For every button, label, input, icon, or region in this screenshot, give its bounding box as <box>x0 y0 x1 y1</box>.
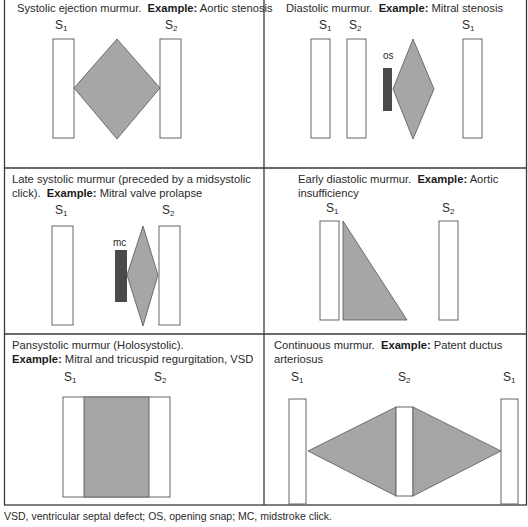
sound-label-s1: S1 <box>326 201 338 216</box>
crescendo-decrescendo-murmur <box>74 39 160 139</box>
sound-label-s2: S2 <box>349 18 361 33</box>
panel-title-pansystolic: Pansystolic murmur (Holosystolic). Examp… <box>12 338 257 366</box>
example-text: Aortic stenosis <box>200 2 273 14</box>
s1-sound-box <box>320 221 339 320</box>
sound-label-s1: S1 <box>319 18 331 33</box>
panel-pansystolic-graphic <box>63 397 170 497</box>
panel-title-diastolic: Diastolic murmur. Example: Mitral stenos… <box>286 1 503 15</box>
panel-systolic-ejection-graphic <box>53 39 181 139</box>
diagram-graphics <box>0 0 528 527</box>
sound-label-s1-next: S1 <box>462 18 474 33</box>
s2-sound-box <box>159 226 180 325</box>
s1-next-sound-box <box>463 39 482 138</box>
panel-title-line1: Late systolic murmur (preceded by a mids… <box>12 172 252 186</box>
s1-sound-box <box>52 226 73 325</box>
example-label: Example: <box>417 173 467 185</box>
late-systolic-murmur-shape <box>127 226 158 326</box>
panel-early-diastolic-graphic <box>320 221 458 320</box>
panel-title-text: Pansystolic murmur (Holosystolic). <box>12 338 257 352</box>
diastolic-murmur-shape <box>393 39 434 139</box>
panel-title-text: Systolic ejection murmur. <box>17 2 141 14</box>
s1-sound-box <box>53 39 74 138</box>
s2-sound-box <box>439 221 458 320</box>
opening-snap-bar <box>383 68 392 111</box>
sound-label-s2: S2 <box>165 18 177 33</box>
panel-title-continuous: Continuous murmur. Example: Patent ductu… <box>274 338 519 366</box>
example-text-line2: arteriosus <box>274 352 519 366</box>
figure-caption: VSD, ventricular septal defect; OS, open… <box>4 510 332 522</box>
panel-continuous-graphic <box>289 399 518 504</box>
sound-label-s1-next: S1 <box>503 370 515 385</box>
sound-label-s1: S1 <box>55 18 67 33</box>
s2-sound-box <box>396 407 413 496</box>
panel-title-text: Continuous murmur. <box>274 339 375 351</box>
marker-label-mc: mc <box>113 237 126 248</box>
example-text: Aortic <box>470 173 499 185</box>
example-label: Example: <box>148 2 198 14</box>
decrescendo-murmur-shape <box>343 221 407 320</box>
marker-label-os: os <box>383 50 394 61</box>
crescendo-murmur-shape <box>308 407 396 496</box>
midsystolic-click-bar <box>115 250 127 302</box>
panel-title-late-systolic: Late systolic murmur (preceded by a mids… <box>12 172 252 200</box>
s1-sound-box <box>311 39 330 138</box>
example-text-line2: insufficiency <box>298 186 520 200</box>
s1-sound-box <box>289 399 306 504</box>
s1-next-sound-box <box>501 399 518 504</box>
panel-title-text: Early diastolic murmur. <box>298 173 411 185</box>
sound-label-s2: S2 <box>398 370 410 385</box>
example-text: Mitral and tricuspid regurgitation, VSD <box>65 353 253 365</box>
panel-title-text: Diastolic murmur. <box>286 2 372 14</box>
s2-sound-box <box>160 39 181 138</box>
sound-label-s2: S2 <box>162 203 174 218</box>
example-label: Example: <box>379 2 429 14</box>
panel-title-line2: click). <box>12 187 41 199</box>
example-label: Example: <box>381 339 431 351</box>
panel-diastolic-graphic <box>311 39 482 139</box>
s2-sound-box <box>347 39 366 138</box>
example-text: Mitral valve prolapse <box>100 187 203 199</box>
example-label: Example: <box>12 353 62 365</box>
sound-label-s2: S2 <box>154 370 166 385</box>
decrescendo-murmur-shape <box>413 407 501 496</box>
panel-title-early-diastolic: Early diastolic murmur. Example: Aortic … <box>298 172 520 200</box>
example-label: Example: <box>47 187 97 199</box>
sound-label-s2: S2 <box>442 201 454 216</box>
murmur-diagram: Systolic ejection murmur. Example: Aorti… <box>0 0 528 527</box>
holosystolic-murmur-shape <box>84 397 149 497</box>
sound-label-s1: S1 <box>64 370 76 385</box>
sound-label-s1: S1 <box>55 203 67 218</box>
sound-label-s1: S1 <box>291 370 303 385</box>
example-text: Patent ductus <box>434 339 502 351</box>
panel-title-systolic-ejection: Systolic ejection murmur. Example: Aorti… <box>17 1 273 15</box>
example-text: Mitral stenosis <box>432 2 504 14</box>
